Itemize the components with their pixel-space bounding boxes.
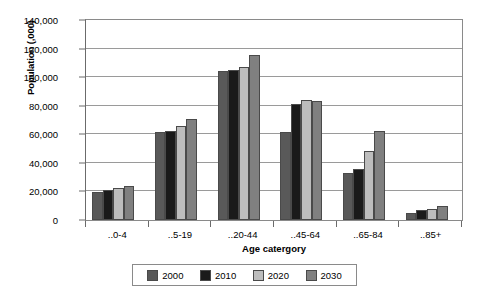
bar[interactable]	[301, 100, 312, 220]
y-axis-tick-label: 80,000	[0, 100, 58, 111]
legend-label: 2010	[215, 270, 236, 281]
bar[interactable]	[103, 190, 114, 220]
bar[interactable]	[416, 210, 427, 220]
legend-label: 2000	[162, 270, 183, 281]
bar[interactable]	[427, 209, 438, 220]
bar-group	[149, 20, 212, 220]
legend-swatch-icon	[253, 270, 264, 281]
x-axis-tick-mark	[461, 221, 462, 227]
x-axis-tick-mark	[85, 221, 86, 227]
y-axis-tick-label: 140,000	[0, 15, 58, 26]
legend-item[interactable]: 2030	[306, 270, 342, 281]
y-axis-tick-label: 20,000	[0, 186, 58, 197]
bar[interactable]	[186, 119, 197, 220]
bar[interactable]	[374, 131, 385, 220]
bar[interactable]	[406, 213, 417, 220]
chart-legend: 2000201020202030	[132, 264, 357, 286]
bar[interactable]	[291, 104, 302, 220]
bar-group	[399, 20, 462, 220]
x-axis-tick-label: ..85+	[396, 229, 466, 240]
bar[interactable]	[364, 151, 375, 220]
x-axis-tick-label: ..20-44	[208, 229, 278, 240]
x-axis-tick-label: ..5-19	[145, 229, 215, 240]
legend-swatch-icon	[147, 270, 158, 281]
legend-label: 2030	[321, 270, 342, 281]
bar[interactable]	[124, 186, 135, 220]
x-axis-tick-label: ..0-4	[82, 229, 152, 240]
y-axis-tick-label: 120,000	[0, 43, 58, 54]
y-axis-tick-label: 0	[0, 215, 58, 226]
bar[interactable]	[437, 206, 448, 220]
y-axis-tick-label: 40,000	[0, 157, 58, 168]
legend-item[interactable]: 2010	[200, 270, 236, 281]
bar[interactable]	[165, 131, 176, 220]
bar-group	[211, 20, 274, 220]
x-axis-tick-mark	[210, 221, 211, 227]
bar-group	[86, 20, 149, 220]
population-bar-chart: Population (,000) 140,000120,000100,0008…	[0, 0, 482, 305]
x-axis-tick-mark	[336, 221, 337, 227]
bar[interactable]	[92, 192, 103, 220]
y-axis-tick-label: 60,000	[0, 129, 58, 140]
bar-group	[337, 20, 400, 220]
bar[interactable]	[113, 188, 124, 220]
x-axis-title: Age catergory	[85, 243, 463, 254]
bar[interactable]	[228, 70, 239, 220]
legend-swatch-icon	[200, 270, 211, 281]
x-axis-tick-mark	[398, 221, 399, 227]
legend-swatch-icon	[306, 270, 317, 281]
bar[interactable]	[343, 173, 354, 220]
bar[interactable]	[155, 132, 166, 220]
bar[interactable]	[176, 126, 187, 220]
x-axis-tick-label: ..65-84	[333, 229, 403, 240]
legend-item[interactable]: 2000	[147, 270, 183, 281]
bar[interactable]	[218, 71, 229, 220]
x-axis-tick-label: ..45-64	[270, 229, 340, 240]
y-axis-tick-label: 100,000	[0, 72, 58, 83]
x-axis-tick-mark	[273, 221, 274, 227]
legend-label: 2020	[268, 270, 289, 281]
bar[interactable]	[239, 67, 250, 220]
x-axis-tick-mark	[148, 221, 149, 227]
bar[interactable]	[280, 132, 291, 220]
bar[interactable]	[353, 169, 364, 220]
bar-series-container	[86, 20, 462, 220]
bar[interactable]	[249, 55, 260, 220]
bar[interactable]	[312, 101, 323, 220]
bar-group	[274, 20, 337, 220]
legend-item[interactable]: 2020	[253, 270, 289, 281]
